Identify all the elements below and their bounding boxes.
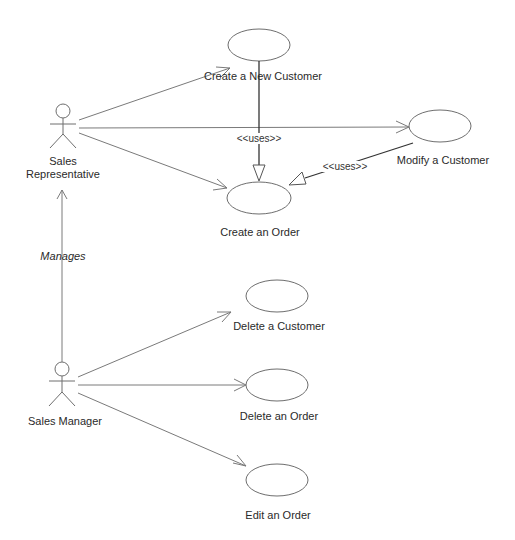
use-case-label-delete-customer: Delete a Customer	[233, 320, 325, 333]
use-case-modify-customer-ellipse[interactable]	[409, 110, 471, 142]
use-case-label-create-order: Create an Order	[220, 226, 299, 239]
assoc-rep-create-order[interactable]	[79, 133, 227, 188]
manages-association-label: Manages	[40, 250, 85, 263]
actor-label-sales-manager: Sales Manager	[28, 415, 102, 428]
sales-manager-actor-icon[interactable]	[49, 362, 75, 406]
uses-stereotype-label-1: <<uses>>	[236, 133, 282, 144]
use-case-label-modify-customer: Modify a Customer	[397, 154, 489, 167]
use-case-delete-order-ellipse[interactable]	[246, 369, 308, 401]
use-case-edit-order-ellipse[interactable]	[246, 464, 308, 496]
assoc-manager-delete-customer[interactable]	[78, 312, 231, 377]
assoc-rep-modify-customer[interactable]	[79, 127, 409, 128]
use-case-label-delete-order: Delete an Order	[240, 410, 318, 423]
use-case-delete-customer-ellipse[interactable]	[246, 280, 308, 312]
use-case-label-edit-order: Edit an Order	[245, 509, 310, 522]
assoc-manager-edit-order[interactable]	[78, 393, 246, 466]
use-case-create-order-ellipse[interactable]	[227, 182, 291, 214]
sales-rep-actor-icon[interactable]	[50, 104, 76, 148]
actor-label-line1: Sales	[26, 155, 100, 168]
actor-label-sales-rep: Sales Representative	[26, 155, 100, 181]
uses-stereotype-label-2: <<uses>>	[322, 161, 368, 172]
actor-label-line2: Representative	[26, 168, 100, 181]
use-case-create-customer-ellipse[interactable]	[228, 29, 290, 61]
use-case-label-create-customer: Create a New Customer	[204, 70, 322, 83]
